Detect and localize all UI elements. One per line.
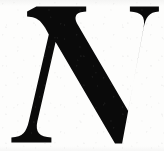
decorative-initial-glyph: Large black italic serif capital letter …: [0, 0, 164, 151]
scanned-page: Large black italic serif capital letter …: [0, 0, 164, 151]
